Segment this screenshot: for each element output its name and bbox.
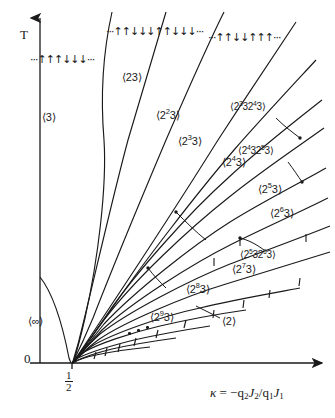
phase-label-2: ⟨2⟩ xyxy=(222,316,236,327)
ellipsis-dot xyxy=(128,332,131,335)
phase-2-base: 2 xyxy=(226,315,232,327)
y-axis-label: T xyxy=(20,28,28,41)
minus-q2: −q xyxy=(230,385,244,400)
phase-label-2e8-3: ⟨283⟩ xyxy=(186,284,209,295)
phase-2e5-tail: 3 xyxy=(272,183,278,195)
mix1-second-exponent: 4 xyxy=(253,100,256,107)
spin-sequence-phase-3: ···↑↑↑↓↓↓··· xyxy=(30,54,94,65)
phase-2e9-tail: 3 xyxy=(164,311,170,323)
phase-3-base: 3 xyxy=(46,111,52,123)
phase-label-2e4-3: ⟨243⟩ xyxy=(222,157,245,168)
phase-label-2e3-3: ⟨233⟩ xyxy=(178,136,201,147)
phase-label-mixed-2e4-3-2e5-3: ⟨243253⟩ xyxy=(238,146,273,156)
phase-2e4-tail: 3 xyxy=(236,156,242,168)
x-axis-tick-label-half: 1 2 xyxy=(65,370,73,393)
boundary-2e6-mix3 xyxy=(73,198,329,363)
phase-label-infinity: ⟨∞⟩ xyxy=(28,316,43,327)
phase-diagram-figure: T 0 1 2 κ = −q2J2/q1J1 ···↑↑↑↓↓↓··· ···↑… xyxy=(0,0,335,418)
phase-2e7-tail: 3 xyxy=(246,263,252,275)
phase-label-23: ⟨23⟩ xyxy=(122,72,141,83)
j1-subscript: 1 xyxy=(279,391,284,401)
mix2-first-exponent: 4 xyxy=(247,144,250,151)
phase-label-2e9-3: ⟨293⟩ xyxy=(150,312,173,323)
ellipsis-dot xyxy=(137,329,140,332)
phase-2e6-tail: 3 xyxy=(284,207,290,219)
phase-label-2e5-3: ⟨253⟩ xyxy=(258,184,281,195)
phase-label-mixed-2e3-3-2e4-3: ⟨233243⟩ xyxy=(230,102,265,112)
phase-23-base: 23 xyxy=(126,71,138,83)
phase-2e8-tail: 3 xyxy=(200,283,206,295)
kappa-symbol: κ xyxy=(210,385,216,400)
accumulation-ellipsis xyxy=(128,326,158,338)
leader-mix1 xyxy=(276,118,300,138)
origin-label: 0 xyxy=(24,352,31,365)
leader-2e6 xyxy=(176,212,206,240)
equals-symbol: = xyxy=(220,385,227,400)
spin-sequence-phase-23: ···↑↑↓↓↓↑↑↓↓↓··· xyxy=(106,26,203,37)
mix3-first-exponent: 5 xyxy=(249,248,252,255)
spin-sequence-phase-2e2-3: ···↑↑↓↓↑↑↑··· xyxy=(208,32,281,43)
phase-label-2e6-3: ⟨263⟩ xyxy=(270,208,293,219)
phase-2e3-tail: 3 xyxy=(192,135,198,147)
x-axis-label: κ = −q2J2/q1J1 xyxy=(210,386,284,399)
mix2-second-exponent: 5 xyxy=(261,144,264,151)
boundary-2e2-2e3 xyxy=(73,12,225,363)
phase-label-2e7-3: ⟨273⟩ xyxy=(232,264,255,275)
mix3-second-exponent: 6 xyxy=(263,248,266,255)
phase-label-mixed-2e5-3-2e6-3: ⟨253263⟩ xyxy=(240,250,275,260)
phase-infinity-base: ∞ xyxy=(32,315,40,327)
ellipsis-dot xyxy=(146,326,149,329)
tick-denominator: 2 xyxy=(65,382,73,393)
phase-2e2-tail: 3 xyxy=(170,109,176,121)
phase-label-2e2-3: ⟨223⟩ xyxy=(156,110,179,121)
leader-mix2 xyxy=(288,162,302,182)
mix1-first-exponent: 3 xyxy=(239,100,242,107)
boundary-infinity xyxy=(40,277,71,363)
phase-label-3: ⟨3⟩ xyxy=(42,112,56,123)
